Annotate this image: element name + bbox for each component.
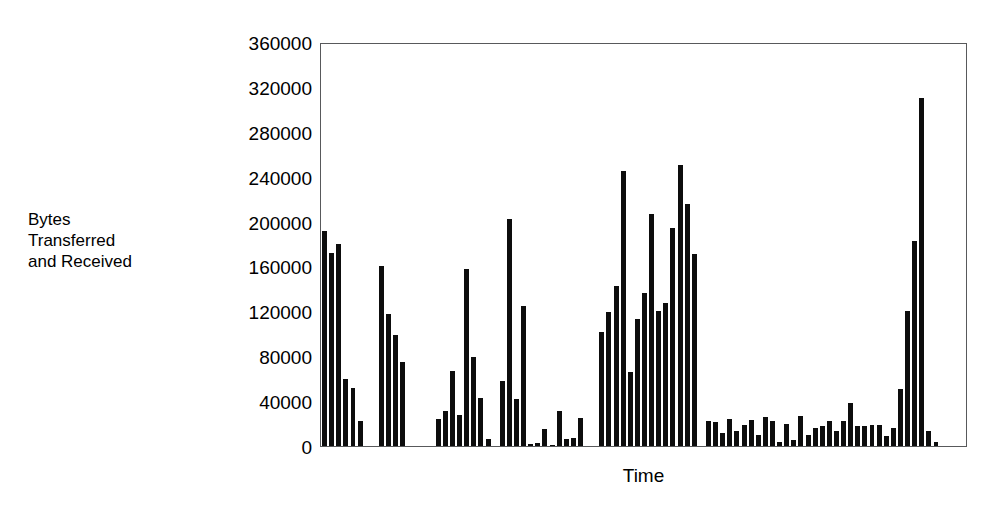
bar (358, 421, 363, 446)
bar (912, 241, 917, 446)
bar (855, 426, 860, 446)
bar (663, 303, 668, 446)
bar (386, 314, 391, 446)
bar (806, 435, 811, 446)
bar (642, 293, 647, 446)
bar (564, 439, 569, 446)
bar (514, 399, 519, 446)
bar (436, 419, 441, 446)
bar (727, 419, 732, 446)
bar (777, 442, 782, 446)
bar (343, 379, 348, 446)
y-tick-label: 360000 (218, 34, 312, 53)
bar (471, 357, 476, 446)
y-tick-label: 40000 (218, 393, 312, 412)
y-tick-label: 240000 (218, 168, 312, 187)
bar (443, 411, 448, 446)
bar (557, 411, 562, 446)
bar (742, 425, 747, 446)
bar (670, 228, 675, 446)
bar (628, 372, 633, 446)
bar (756, 435, 761, 446)
bar (898, 389, 903, 446)
bar (926, 431, 931, 446)
bar (706, 421, 711, 446)
bar (578, 418, 583, 446)
bar (528, 444, 533, 446)
bar (749, 420, 754, 446)
bar (621, 171, 626, 446)
bar (500, 381, 505, 446)
bar-series (321, 44, 966, 446)
bar (848, 403, 853, 446)
bar (656, 311, 661, 446)
bar (798, 416, 803, 446)
bar (734, 431, 739, 446)
bar (919, 98, 924, 446)
bar (784, 424, 789, 446)
bar (841, 421, 846, 446)
bar (713, 422, 718, 446)
bar (336, 244, 341, 446)
bar (550, 445, 555, 446)
bar (507, 219, 512, 446)
y-tick-label: 160000 (218, 258, 312, 277)
y-axis-tick-labels: 0400008000012000016000020000024000028000… (218, 43, 312, 447)
bar (329, 253, 334, 446)
bar (820, 426, 825, 446)
y-tick-label: 80000 (218, 348, 312, 367)
bar (862, 426, 867, 446)
bar (400, 362, 405, 446)
bar (614, 286, 619, 446)
bar (393, 335, 398, 446)
x-axis-label: Time (320, 465, 967, 487)
bar (599, 332, 604, 446)
bar (891, 428, 896, 446)
bar (322, 231, 327, 446)
bar (464, 269, 469, 446)
bar (905, 311, 910, 446)
bar (486, 439, 491, 446)
y-axis-label: Bytes Transferred and Received (28, 209, 213, 272)
chart-figure: Bytes Transferred and Received 040000800… (0, 0, 1003, 520)
bar (606, 312, 611, 446)
bar (521, 306, 526, 446)
bar (791, 440, 796, 446)
bar (870, 425, 875, 446)
bar (571, 438, 576, 446)
bar (649, 214, 654, 446)
y-tick-label: 120000 (218, 303, 312, 322)
plot-area (320, 43, 967, 447)
y-tick-label: 200000 (218, 213, 312, 232)
bar (635, 319, 640, 446)
bar (763, 417, 768, 446)
bar (692, 254, 697, 446)
bar (351, 388, 356, 446)
bar (934, 442, 939, 446)
bar (450, 371, 455, 446)
bar (379, 266, 384, 446)
bar (457, 415, 462, 446)
bar (678, 165, 683, 446)
bar (535, 443, 540, 446)
bar (834, 431, 839, 446)
bar (813, 428, 818, 446)
bar (877, 425, 882, 446)
bar (770, 421, 775, 446)
bar (542, 429, 547, 446)
bar (685, 204, 690, 446)
bar (720, 433, 725, 446)
y-tick-label: 280000 (218, 123, 312, 142)
y-tick-label: 0 (218, 438, 312, 457)
bar (478, 398, 483, 446)
bar (884, 436, 889, 446)
y-tick-label: 320000 (218, 78, 312, 97)
bar (827, 421, 832, 446)
